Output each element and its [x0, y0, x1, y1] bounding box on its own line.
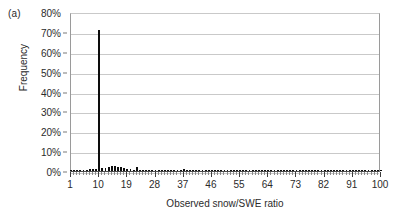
x-axis-minor-tick — [145, 172, 146, 175]
x-axis-minor-tick — [186, 172, 187, 175]
x-axis-tick-label: 73 — [290, 179, 301, 190]
x-axis-major-tick — [183, 172, 184, 177]
x-axis-minor-tick — [108, 172, 109, 175]
x-axis-major-tick — [239, 172, 240, 177]
y-axis-tick-mark — [63, 32, 67, 33]
x-axis-minor-tick — [321, 172, 322, 175]
bar — [98, 30, 100, 171]
bar — [352, 170, 354, 171]
bar — [177, 170, 179, 171]
bar — [308, 170, 310, 171]
x-axis-minor-tick — [277, 172, 278, 175]
x-axis-tick-label: 28 — [149, 179, 160, 190]
x-axis-tick-label: 10 — [93, 179, 104, 190]
bar — [230, 170, 232, 171]
bar — [252, 170, 254, 171]
y-axis-tick-mark — [63, 92, 67, 93]
x-axis-minor-tick — [308, 172, 309, 175]
bar — [161, 170, 163, 171]
x-axis-minor-tick — [258, 172, 259, 175]
bar — [311, 170, 313, 171]
bar — [101, 168, 103, 171]
x-axis-minor-tick — [248, 172, 249, 175]
bar — [270, 170, 272, 171]
x-axis-tick-label: 1 — [67, 179, 73, 190]
bar — [374, 170, 376, 171]
x-axis-tick-label: 100 — [372, 179, 389, 190]
x-axis-minor-tick — [274, 172, 275, 175]
x-axis-minor-tick — [358, 172, 359, 175]
x-axis-minor-tick — [104, 172, 105, 175]
x-axis-minor-tick — [305, 172, 306, 175]
x-axis-minor-tick — [198, 172, 199, 175]
x-axis-major-tick — [70, 172, 71, 177]
plot-area — [70, 13, 380, 172]
x-axis-minor-tick — [73, 172, 74, 175]
bar — [346, 170, 348, 171]
bar — [361, 170, 363, 171]
x-axis-minor-tick — [327, 172, 328, 175]
x-axis-minor-tick — [374, 172, 375, 175]
bar — [217, 170, 219, 171]
bar — [249, 170, 251, 171]
bar — [195, 170, 197, 171]
bar — [280, 170, 282, 171]
x-axis-minor-tick — [173, 172, 174, 175]
bar — [167, 170, 169, 171]
panel-label: (a) — [8, 8, 21, 19]
x-axis-minor-tick — [142, 172, 143, 175]
bar — [123, 168, 125, 171]
x-axis-minor-tick — [255, 172, 256, 175]
y-axis-tick-mark — [63, 152, 67, 153]
bar — [267, 170, 269, 171]
y-axis-tick-label: 0% — [47, 167, 61, 178]
bar — [224, 170, 226, 171]
bar — [114, 166, 116, 171]
bar — [214, 170, 216, 171]
bar — [208, 170, 210, 171]
x-axis-minor-tick — [208, 172, 209, 175]
bar — [317, 170, 319, 171]
bar — [324, 170, 326, 171]
bar — [220, 170, 222, 171]
x-axis-minor-tick — [114, 172, 115, 175]
y-axis-tick-label: 60% — [41, 47, 61, 58]
x-axis-major-tick — [295, 172, 296, 177]
x-axis-minor-tick — [227, 172, 228, 175]
x-axis-minor-tick — [167, 172, 168, 175]
x-axis-minor-tick — [289, 172, 290, 175]
bar — [73, 170, 75, 171]
y-axis-tick-mark — [63, 72, 67, 73]
bar — [126, 169, 128, 171]
x-axis-minor-tick — [336, 172, 337, 175]
x-axis-major-tick — [126, 172, 127, 177]
bar — [133, 170, 135, 171]
bar — [189, 170, 191, 171]
x-axis-minor-tick — [242, 172, 243, 175]
x-axis-minor-tick — [117, 172, 118, 175]
bar — [89, 169, 91, 171]
bar — [111, 166, 113, 171]
x-axis-minor-tick — [214, 172, 215, 175]
bar — [186, 170, 188, 171]
x-axis-minor-tick — [180, 172, 181, 175]
x-axis-minor-tick — [292, 172, 293, 175]
x-axis-tick-label: 37 — [177, 179, 188, 190]
x-axis-minor-tick — [95, 172, 96, 175]
y-axis-tick-mark — [63, 172, 67, 173]
y-axis-tick-label: 50% — [41, 67, 61, 78]
bar — [364, 170, 366, 171]
x-axis-minor-tick — [136, 172, 137, 175]
bar — [105, 168, 107, 171]
x-axis-minor-tick — [270, 172, 271, 175]
y-axis-tick-label: 20% — [41, 127, 61, 138]
bar — [333, 170, 335, 171]
bar — [183, 169, 185, 171]
bar — [377, 170, 379, 171]
x-axis-minor-tick — [120, 172, 121, 175]
x-axis-tick-label: 46 — [205, 179, 216, 190]
bar — [205, 170, 207, 171]
x-axis-minor-tick — [314, 172, 315, 175]
bar — [236, 170, 238, 171]
y-axis-tick-mark — [63, 132, 67, 133]
